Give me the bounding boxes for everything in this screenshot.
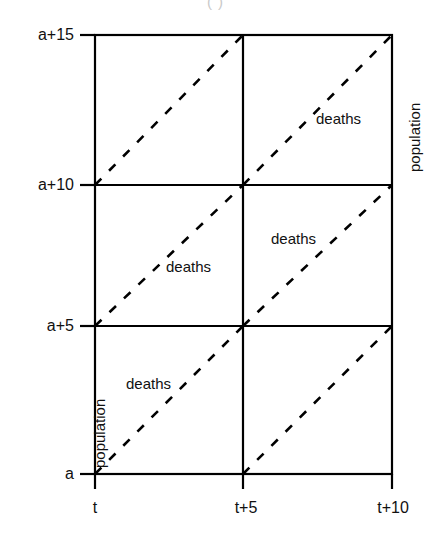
lifeline-col1-row3 xyxy=(95,35,243,185)
population-label-right: population xyxy=(407,103,422,172)
lifeline-col2-row2 xyxy=(243,185,392,326)
x-tick-label-t10: t+10 xyxy=(377,500,409,516)
population-label-left: population xyxy=(92,399,107,468)
lexis-diagram-figure: ( ) a+15 a+10 a+5 a t t+5 t+10 xyxy=(0,0,431,545)
y-tick-label-a10: a+10 xyxy=(0,177,74,193)
lifeline-col2-row1 xyxy=(243,326,392,474)
deaths-label-middle-right: deaths xyxy=(271,231,316,246)
x-tick-label-t: t xyxy=(93,500,97,516)
y-tick-label-a: a xyxy=(0,466,74,482)
deaths-label-top-right: deaths xyxy=(316,111,361,126)
deaths-label-middle-left: deaths xyxy=(166,259,211,274)
deaths-label-bottom-left: deaths xyxy=(126,376,171,391)
lifeline-col1-row2 xyxy=(95,185,243,326)
y-tick-label-a5: a+5 xyxy=(0,318,74,334)
y-tick-label-a15: a+15 xyxy=(0,27,74,43)
lifeline-col1-row1 xyxy=(95,326,243,474)
x-tick-label-t5: t+5 xyxy=(235,500,258,516)
lexis-grid-plot xyxy=(0,0,431,545)
